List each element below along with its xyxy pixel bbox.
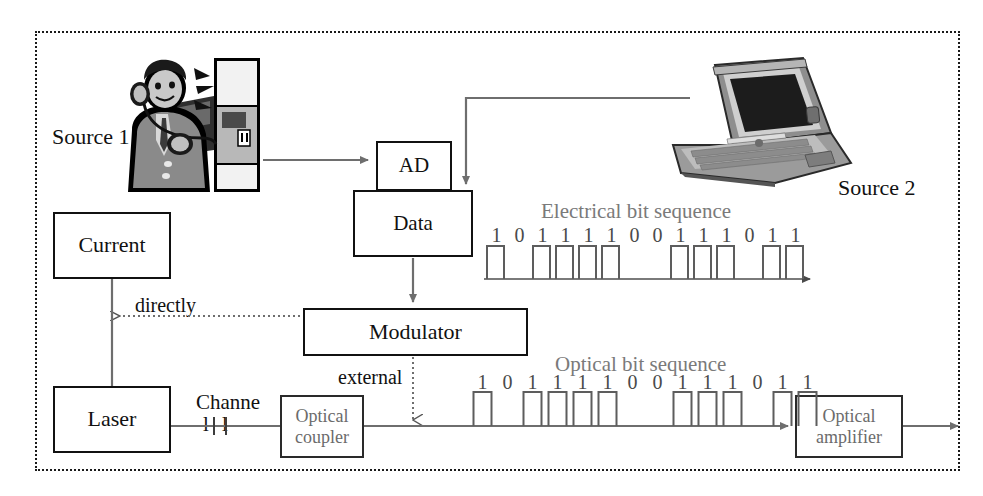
bit-digit: 0 (645, 371, 670, 394)
bit-digit: 1 (600, 224, 623, 247)
payphone-caller-icon (110, 52, 280, 197)
optical-amplifier-line1: Optical (823, 406, 876, 426)
payphone-caller-graphic (110, 52, 280, 197)
optical-amplifier-line2: amplifier (816, 427, 882, 447)
label-source1: Source 1 (52, 124, 130, 150)
bit-digit: 1 (795, 371, 820, 394)
bit-digit: 1 (531, 224, 554, 247)
bit-digit: 1 (669, 224, 692, 247)
box-ad[interactable]: AD (376, 141, 452, 191)
bit-digit: 0 (508, 224, 531, 247)
bit-digit: 1 (545, 371, 570, 394)
optical-coupler-line2: coupler (295, 427, 349, 447)
laptop-icon (655, 55, 860, 190)
bit-digit: 1 (784, 224, 807, 247)
electrical-bit-digits: 10111100111011 (485, 224, 807, 247)
box-optical-amplifier[interactable]: Optical amplifier (795, 395, 903, 458)
box-modulator[interactable]: Modulator (303, 308, 528, 356)
label-electrical-bit-sequence: Electrical bit sequence (541, 199, 731, 224)
bit-digit: 0 (646, 224, 669, 247)
bit-digit: 0 (745, 371, 770, 394)
bit-digit: 1 (577, 224, 600, 247)
bit-digit: 1 (695, 371, 720, 394)
label-channel-continued: l l (203, 412, 232, 437)
label-directly: directly (135, 294, 196, 317)
bit-digit: 1 (554, 224, 577, 247)
box-laser[interactable]: Laser (53, 386, 171, 453)
bit-digit: 1 (770, 371, 795, 394)
bit-digit: 1 (595, 371, 620, 394)
bit-digit: 1 (720, 371, 745, 394)
bit-digit: 1 (692, 224, 715, 247)
box-data[interactable]: Data (353, 190, 473, 257)
bit-digit: 1 (470, 371, 495, 394)
bit-digit: 0 (495, 371, 520, 394)
diagram-canvas: Current Laser AD Data Modulator Optical … (0, 0, 983, 496)
optical-bit-digits: 10111100111011 (470, 371, 820, 394)
bit-digit: 0 (738, 224, 761, 247)
bit-digit: 1 (715, 224, 738, 247)
label-source2: Source 2 (838, 175, 916, 201)
bit-digit: 1 (761, 224, 784, 247)
box-current[interactable]: Current (53, 212, 171, 279)
bit-digit: 0 (620, 371, 645, 394)
bit-digit: 1 (485, 224, 508, 247)
bit-digit: 1 (670, 371, 695, 394)
laptop-graphic (655, 55, 860, 190)
bit-digit: 1 (570, 371, 595, 394)
bit-digit: 0 (623, 224, 646, 247)
optical-coupler-line1: Optical (296, 406, 349, 426)
box-optical-coupler[interactable]: Optical coupler (280, 395, 364, 458)
bit-digit: 1 (520, 371, 545, 394)
label-external: external (338, 366, 402, 389)
